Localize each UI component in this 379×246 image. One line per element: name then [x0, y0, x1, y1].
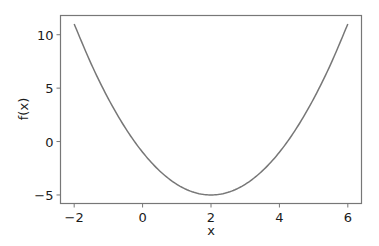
x-tick-label: −2 — [65, 210, 84, 225]
x-axis-label: x — [207, 223, 215, 238]
series-line-0 — [74, 24, 348, 195]
x-tick-label: 6 — [344, 210, 352, 225]
y-tick-label: −5 — [34, 188, 53, 203]
x-tick-label: 0 — [138, 210, 146, 225]
y-axis-label: f(x) — [16, 98, 31, 120]
chart: −20246 −50510 x f(x) — [0, 0, 379, 246]
x-axis: −20246 — [65, 204, 352, 225]
y-tick-label: 10 — [37, 28, 54, 43]
x-tick-label: 4 — [275, 210, 283, 225]
y-tick-label: 5 — [45, 81, 53, 96]
axes-frame — [61, 16, 362, 204]
y-axis: −50510 — [34, 28, 60, 203]
plot-area — [74, 24, 348, 195]
y-tick-label: 0 — [45, 135, 53, 150]
